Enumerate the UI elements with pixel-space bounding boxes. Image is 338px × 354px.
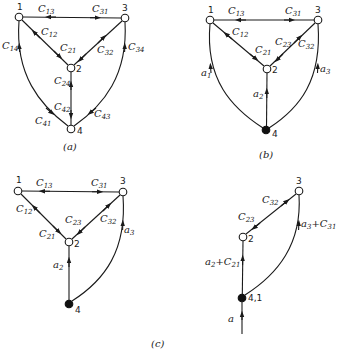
edge-label-c34: C34 xyxy=(128,41,145,54)
edge-label-c31: C31 xyxy=(92,3,109,16)
edge-4-2 xyxy=(267,73,268,127)
node-label-3: 3 xyxy=(120,176,126,186)
node-1 xyxy=(206,16,214,24)
node-1 xyxy=(14,187,22,195)
edge-label-a3: a3 xyxy=(320,63,331,76)
edge-label-c23: C23 xyxy=(65,214,82,227)
edge-label-c21: C21 xyxy=(255,44,272,57)
edge-label-c21: C21 xyxy=(39,228,56,241)
node-label-2: 2 xyxy=(74,239,80,249)
node-3 xyxy=(121,14,129,22)
node-label-4: 4 xyxy=(75,305,81,315)
node-label-1: 1 xyxy=(16,175,22,185)
panel-c-right: 2 3 4,1 C32 C23 a2+C21 a3+C31 a xyxy=(205,176,336,334)
node-3 xyxy=(314,16,322,24)
node-4-1 xyxy=(238,294,246,302)
edge-label-c24: C24 xyxy=(54,75,71,88)
node-4 xyxy=(262,126,270,134)
edge-label-a1: a1 xyxy=(201,67,211,80)
edge-label-c31: C31 xyxy=(285,5,302,18)
node-label-2: 2 xyxy=(248,234,254,244)
edge-41-3 xyxy=(245,195,299,295)
node-2 xyxy=(263,65,271,73)
edge-label-c43: C43 xyxy=(94,108,111,121)
edge-label-c14: C14 xyxy=(2,40,19,53)
edge-label-a2: a2 xyxy=(53,259,64,272)
edge-1-3 xyxy=(23,17,121,18)
node-label-3: 3 xyxy=(122,3,128,13)
edge-3-2 xyxy=(74,21,122,65)
edge-label-c12: C12 xyxy=(16,203,33,216)
node-label-4-1: 4,1 xyxy=(248,293,262,303)
node-label-1: 1 xyxy=(208,5,214,15)
edge-label-a3: a3 xyxy=(124,224,135,237)
edge-1-3 xyxy=(22,191,119,192)
edge-41-2 xyxy=(242,241,243,295)
edge-label-c32: C32 xyxy=(97,44,114,57)
edge-label-c32: C32 xyxy=(100,213,117,226)
panel-a: 1 2 3 4 C13 C31 C12 C21 C32 C34 C14 C24 … xyxy=(2,2,145,152)
edge-label-c42: C42 xyxy=(54,101,71,114)
edge-label-c23: C23 xyxy=(238,211,255,224)
node-1 xyxy=(15,13,23,21)
edge-label-c13: C13 xyxy=(38,3,55,16)
node-label-1: 1 xyxy=(17,2,23,12)
node-label-4: 4 xyxy=(272,129,278,139)
node-4 xyxy=(65,300,73,308)
node-label-2: 2 xyxy=(272,65,278,75)
edge-label-a3-plus-c31: a3+C31 xyxy=(301,218,336,231)
node-label-4: 4 xyxy=(77,126,83,136)
caption-a: (a) xyxy=(63,141,77,152)
node-2 xyxy=(239,233,247,241)
edge-label-c32: C32 xyxy=(298,38,315,51)
edge-label-c12: C12 xyxy=(232,26,249,39)
edge-4-1 xyxy=(209,24,263,128)
caption-b: (b) xyxy=(259,149,273,160)
panel-b: 1 2 3 4 C13 C31 C12 C21 C23 C32 a1 a2 a3… xyxy=(201,5,331,160)
node-label-3: 3 xyxy=(296,176,302,186)
edge-label-c32: C32 xyxy=(262,194,279,207)
panel-c-left: 1 2 3 4 C13 C31 C12 C21 C23 C32 a2 a3 xyxy=(14,175,135,315)
network-diagram-figure: 1 2 3 4 C13 C31 C12 C21 C32 C34 C14 C24 … xyxy=(0,0,338,354)
node-3 xyxy=(295,187,303,195)
edge-3-2 xyxy=(72,195,120,239)
edge-label-c12: C12 xyxy=(41,26,58,39)
node-label-3: 3 xyxy=(315,5,321,15)
node-4 xyxy=(67,125,75,133)
edge-label-a-input: a xyxy=(228,313,234,324)
edge-label-c13: C13 xyxy=(36,177,53,190)
edge-label-c23: C23 xyxy=(275,36,292,49)
edge-label-c41: C41 xyxy=(35,115,52,128)
edge-label-a2: a2 xyxy=(253,88,264,101)
caption-c: (c) xyxy=(151,338,165,349)
edge-label-c13: C13 xyxy=(228,5,245,18)
node-2 xyxy=(67,64,75,72)
node-3 xyxy=(119,188,127,196)
edge-label-c21: C21 xyxy=(60,42,77,55)
node-label-2: 2 xyxy=(76,64,82,74)
node-2 xyxy=(65,238,73,246)
edge-label-c31: C31 xyxy=(91,177,108,190)
edge-label-a2-plus-c21: a2+C21 xyxy=(205,256,240,269)
